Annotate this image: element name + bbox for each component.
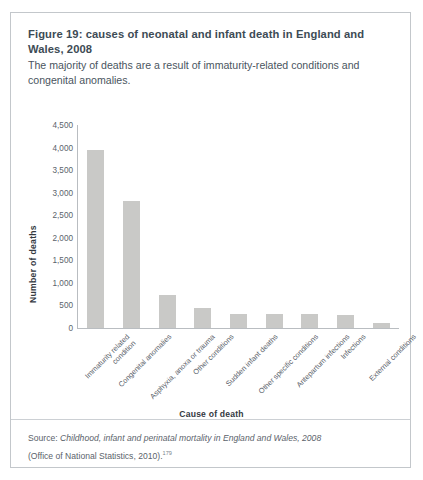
y-axis-tick: 4,500 [39,121,73,130]
bar-slot [185,125,221,328]
source-title: Childhood, infant and perinatal mortalit… [60,433,321,443]
cat-slot: Sudden infant deaths [221,331,257,411]
y-axis-tick: 2,500 [39,211,73,220]
figure-header: Figure 19: causes of neonatal and infant… [28,27,390,88]
bar[interactable] [123,201,140,328]
figure-container: Figure 19: causes of neonatal and infant… [10,12,411,468]
x-axis-tick: External conditions [368,333,418,383]
source-footnote-ref: 179 [163,450,172,456]
y-axis-tick: 4,000 [39,143,73,152]
x-axis-title: Cause of death [11,409,412,419]
y-axis-tick: 3,500 [39,166,73,175]
y-axis-title: Number of deaths [28,209,38,319]
source-line-2: (Office of National Statistics, 2010).17… [28,446,393,464]
y-axis-tick: 3,000 [39,188,73,197]
source-prefix: Source: [28,433,60,443]
figure-subtitle: The majority of deaths are a result of i… [28,58,390,88]
source-line-1: Source: Childhood, infant and perinatal … [28,431,393,446]
bar-slot [114,125,150,328]
cat-slot: Antepartum infections [292,331,328,411]
bar[interactable] [230,314,247,328]
y-axis-tick: 0 [39,324,73,333]
bar[interactable] [266,314,283,328]
bar-slot [221,125,257,328]
cat-slot: External conditions [363,331,399,411]
bar-slot [363,125,399,328]
y-axis-tick-labels: 4,5004,0003,5003,0002,5002,0001,5001,000… [39,109,73,333]
y-axis-tick: 1,000 [39,278,73,287]
cat-slot: Infections [328,331,364,411]
bar[interactable] [87,150,104,328]
bar-series [78,125,399,328]
y-axis-tick: 1,500 [39,256,73,265]
cat-slot: Other conditions [185,331,221,411]
bar-slot [328,125,364,328]
bar[interactable] [194,308,211,328]
figure-title: Figure 19: causes of neonatal and infant… [28,27,390,57]
y-axis-tick: 500 [39,301,73,310]
bar-slot [292,125,328,328]
bar-chart: Number of deaths 4,5004,0003,5003,0002,5… [11,109,412,419]
cat-slot: Other specific conditions [256,331,292,411]
x-axis-tick-labels: Immaturity relatedconditionCongenital an… [78,331,399,411]
cat-slot: Immaturity relatedcondition [78,331,114,411]
bar[interactable] [337,315,354,328]
bar[interactable] [373,323,390,328]
bar[interactable] [301,314,318,328]
bar-slot [78,125,114,328]
source-publisher: (Office of National Statistics, 2010). [28,451,163,461]
cat-slot: Asphyxia, anoxa or trauma [149,331,185,411]
source-divider [11,419,410,420]
x-axis-line [77,328,399,329]
y-axis-tick: 2,000 [39,233,73,242]
cat-slot: Congenital anomalies [114,331,150,411]
bar[interactable] [159,295,176,328]
bar-slot [149,125,185,328]
bar-slot [256,125,292,328]
figure-source: Source: Childhood, infant and perinatal … [28,431,393,464]
